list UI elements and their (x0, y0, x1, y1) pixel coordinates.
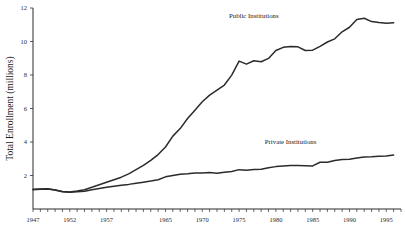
x-tick-label: 1985 (306, 216, 319, 223)
chart-canvas: 2468101219471952195719651970197519801985… (0, 0, 405, 233)
x-tick-label: 1980 (269, 216, 282, 223)
series-line-private-institutions (33, 155, 394, 192)
x-tick-label: 1975 (233, 216, 246, 223)
y-tick-label: 12 (21, 4, 28, 11)
x-tick-label: 1990 (343, 216, 356, 223)
x-tick-label: 1957 (100, 216, 114, 223)
y-tick-label: 4 (24, 138, 28, 145)
x-tick-label: 1952 (63, 216, 76, 223)
x-tick-label: 1965 (159, 216, 172, 223)
x-tick-label: 1970 (196, 216, 209, 223)
x-tick-label: 1995 (380, 216, 393, 223)
y-tick-label: 10 (21, 38, 28, 45)
annotation-private-institutions: Private Institutions (265, 138, 317, 145)
y-tick-label: 6 (24, 105, 28, 112)
enrollment-line-chart: 2468101219471952195719651970197519801985… (0, 0, 405, 233)
series-line-public-institutions (33, 18, 394, 192)
y-tick-label: 8 (24, 71, 27, 78)
y-axis-label: Total Enrollment (millions) (5, 56, 16, 160)
y-tick-label: 2 (24, 172, 27, 179)
x-tick-label: 1947 (27, 216, 41, 223)
annotation-public-institutions: Public Institutions (229, 12, 279, 19)
